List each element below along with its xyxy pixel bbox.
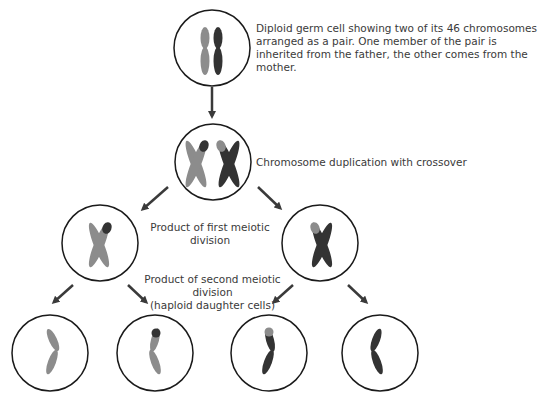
first-division-right [282,205,358,281]
haploid-note: (haploid daughter cells) [140,299,285,312]
arrow-left [143,187,168,209]
arrow-ll [54,285,73,302]
daughter-cell-3 [231,315,307,391]
diploid-label: Diploid germ cell showing two of its 46 … [256,22,546,74]
first-division-left [62,205,138,281]
daughter-cell-4 [342,315,418,391]
second-division-title: Product of second meiotic division [140,273,285,299]
arrow-right [258,187,280,208]
first-division-label: Product of first meiotic division [150,221,270,247]
daughter-cell-2 [117,315,193,391]
second-division-label: Product of second meiotic division (hapl… [140,273,285,312]
daughter-cell-1 [12,315,88,391]
arrow-rr [348,285,366,302]
duplicated-cell [175,124,251,200]
duplication-label: Chromosome duplication with crossover [256,156,516,169]
diploid-germ-cell [174,10,250,86]
